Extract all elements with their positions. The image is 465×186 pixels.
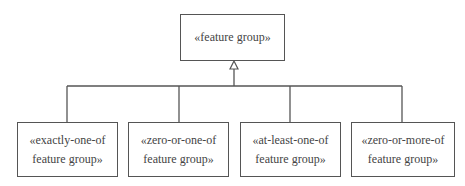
parent-box-feature-group: «feature group» xyxy=(180,14,285,61)
child-label-line-1: «at-least-one-of xyxy=(253,131,329,150)
child-box-at-least-one-of: «at-least-one-of feature group» xyxy=(240,122,341,177)
child-label-line-2: feature group» xyxy=(143,150,213,169)
parent-label: «feature group» xyxy=(194,28,270,47)
child-box-exactly-one-of: «exactly-one-of feature group» xyxy=(17,122,118,177)
child-label-line-2: feature group» xyxy=(32,150,102,169)
child-box-zero-or-one-of: «zero-or-one-of feature group» xyxy=(128,122,229,177)
child-label-line-1: «zero-or-one-of xyxy=(141,131,217,150)
child-label-line-2: feature group» xyxy=(255,150,325,169)
generalization-arrowhead-icon xyxy=(230,61,238,69)
child-box-zero-or-more-of: «zero-or-more-of feature group» xyxy=(351,122,455,177)
child-label-line-1: «exactly-one-of xyxy=(30,131,106,150)
child-label-line-1: «zero-or-more-of xyxy=(361,131,444,150)
child-label-line-2: feature group» xyxy=(368,150,438,169)
